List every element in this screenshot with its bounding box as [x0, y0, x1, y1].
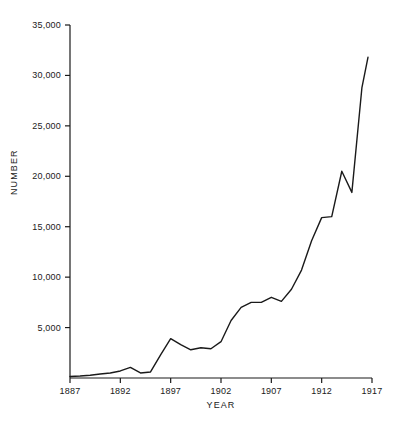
y-tick-label: 35,000 [0, 21, 61, 30]
x-tick-label: 1902 [211, 387, 232, 396]
y-axis-ticks [65, 25, 70, 328]
chart-figure: 5,00010,00015,00020,00025,00030,00035,00… [0, 0, 397, 431]
y-tick-label: 15,000 [0, 222, 61, 231]
x-tick-label: 1887 [60, 387, 81, 396]
x-tick-label: 1897 [160, 387, 181, 396]
line-chart-plot [0, 0, 397, 431]
data-series-group [70, 57, 368, 376]
y-tick-label: 10,000 [0, 273, 61, 282]
axis-lines [70, 25, 372, 378]
series-line-number [70, 57, 368, 376]
x-tick-label: 1917 [362, 387, 383, 396]
y-tick-label: 30,000 [0, 71, 61, 80]
y-tick-label: 5,000 [0, 323, 61, 332]
x-tick-label: 1907 [261, 387, 282, 396]
y-tick-label: 25,000 [0, 121, 61, 130]
x-tick-label: 1912 [311, 387, 332, 396]
y-axis-title: NUMBER [10, 149, 19, 195]
x-tick-label: 1892 [110, 387, 131, 396]
x-axis-ticks [70, 378, 372, 383]
x-axis-title: YEAR [207, 401, 236, 410]
